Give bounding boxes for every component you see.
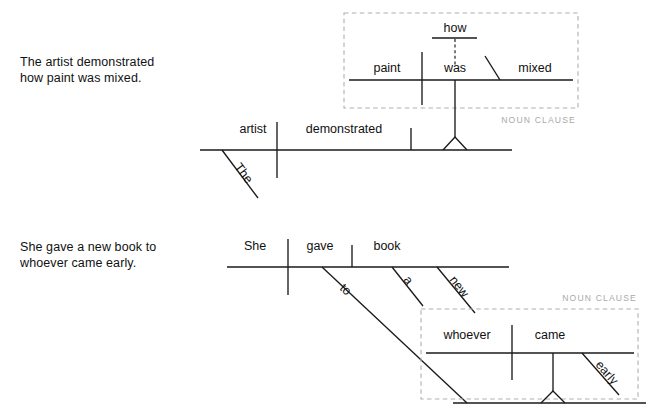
example-2-word-she: She (244, 239, 266, 253)
example-1-predicate-slash (485, 56, 500, 80)
example-2-word-a: a (401, 273, 416, 287)
example-1-word-demonstrated: demonstrated (306, 122, 382, 136)
example-2-clause-label: NOUN CLAUSE (562, 293, 637, 303)
example-2-article-diagonal (392, 267, 423, 306)
example-1-word-artist: artist (239, 122, 267, 136)
example-2-diagram: NOUN CLAUSE She gave book whoever came t… (227, 239, 646, 403)
sentence-diagrams: NOUN CLAUSE artist (0, 0, 646, 413)
example-1-word-the: The (232, 160, 256, 186)
example-1-word-mixed: mixed (518, 61, 551, 75)
example-1-word-paint: paint (373, 61, 401, 75)
example-1-word-how: how (444, 21, 468, 35)
example-1-pedestal-triangle (443, 137, 467, 150)
example-2-pedestal-triangle (541, 391, 565, 403)
example-2-word-new: new (447, 273, 473, 300)
example-2-word-whoever: whoever (442, 328, 490, 342)
example-1-word-was: was (443, 61, 466, 75)
example-2-word-came: came (535, 328, 566, 342)
example-1-clause-label: NOUN CLAUSE (501, 115, 576, 125)
example-2-word-early: early (593, 358, 622, 388)
example-2-word-book: book (373, 239, 401, 253)
example-1-diagram: NOUN CLAUSE artist (200, 13, 578, 198)
diagram-sheet: The artist demonstrated how paint was mi… (0, 0, 646, 413)
example-2-word-gave: gave (306, 239, 333, 253)
example-2-noun-clause-box (421, 309, 638, 399)
